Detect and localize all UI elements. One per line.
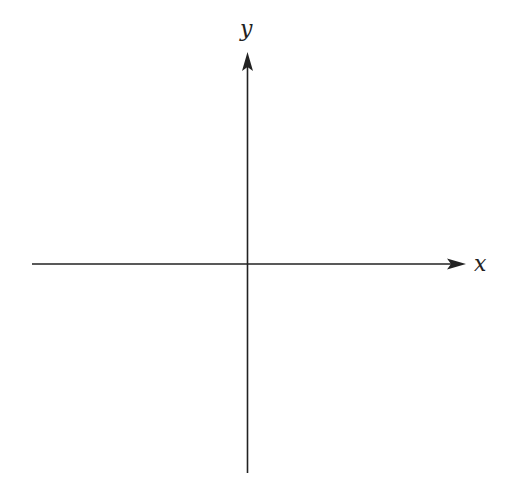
y-axis: y — [239, 16, 253, 473]
x-axis: x — [32, 251, 487, 276]
y-axis-label: y — [239, 16, 253, 41]
x-axis-label: x — [474, 251, 487, 276]
coordinate-plane: x y — [0, 0, 511, 493]
